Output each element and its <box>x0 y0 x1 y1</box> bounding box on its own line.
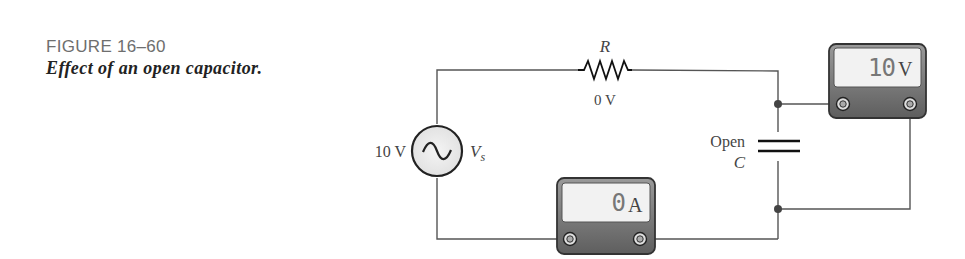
resistor-label: R <box>599 37 611 56</box>
resistor: R 0 V <box>578 37 632 108</box>
source-symbol: Vs <box>470 142 485 164</box>
voltmeter-reading: 10 <box>868 54 895 82</box>
voltmeter-unit: V <box>898 58 913 80</box>
junction-dot-top <box>774 100 782 108</box>
capacitor: Open C <box>710 133 800 172</box>
ammeter-reading: 0 <box>612 189 626 217</box>
voltmeter-terminal-right-icon <box>904 98 917 111</box>
circuit-diagram: R 0 V 10 V Vs Open C 10 V 0 A <box>0 0 965 259</box>
ammeter-terminal-left-icon <box>564 233 577 246</box>
junction-dot-bottom <box>774 205 782 213</box>
ammeter: 0 A <box>557 178 655 254</box>
source-value: 10 V <box>375 143 407 160</box>
ammeter-terminal-right-icon <box>634 233 647 246</box>
voltmeter: 10 V <box>829 44 926 118</box>
capacitor-state: Open <box>710 133 745 151</box>
ammeter-unit: A <box>628 194 643 216</box>
resistor-zigzag-icon <box>578 61 632 79</box>
voltmeter-terminal-left-icon <box>837 98 850 111</box>
ac-source: 10 V Vs <box>375 126 486 176</box>
resistor-voltage: 0 V <box>594 92 616 108</box>
capacitor-label: C <box>734 153 746 172</box>
